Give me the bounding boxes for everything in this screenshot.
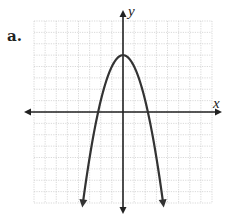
y-axis-top-arrow-icon [120, 10, 127, 17]
y-axis-label: y [126, 3, 135, 19]
x-axis-left-arrow-icon [24, 109, 31, 116]
axes [24, 10, 222, 214]
y-axis-bottom-arrow-icon [120, 207, 127, 214]
x-axis-label: x [212, 95, 220, 111]
parabola-chart: x y [0, 0, 231, 216]
